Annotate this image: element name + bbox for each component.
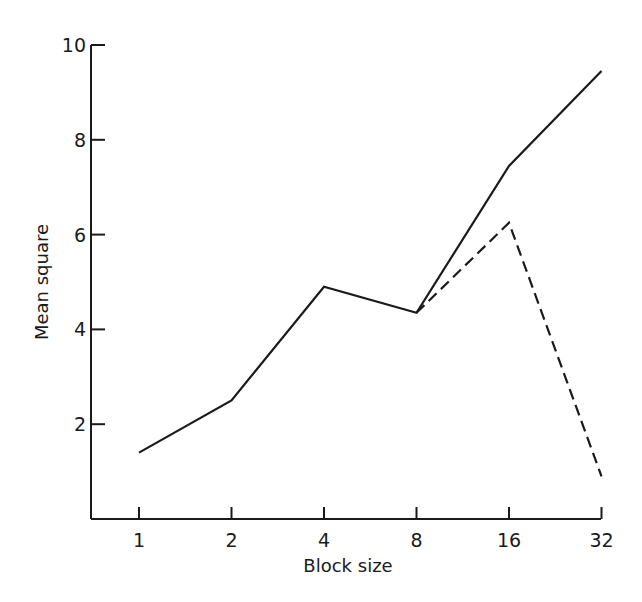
x-tick-label: 32: [589, 529, 613, 551]
x-tick-label: 4: [318, 529, 330, 551]
x-tick-label: 8: [410, 529, 422, 551]
series-line-dashed: [417, 223, 602, 476]
series-layer: [139, 71, 602, 476]
x-tick-label: 16: [497, 529, 521, 551]
y-tick-label: 8: [74, 129, 86, 151]
y-tick-label: 2: [74, 413, 86, 435]
x-axis-title: Block size: [303, 555, 392, 576]
y-axis-title: Mean square: [31, 224, 52, 340]
line-chart: 24681012481632 Block size Mean square: [0, 0, 642, 602]
axes: 24681012481632: [62, 34, 614, 551]
x-tick-label: 1: [133, 529, 145, 551]
y-tick-label: 6: [74, 224, 86, 246]
chart-canvas: 24681012481632 Block size Mean square: [0, 0, 642, 602]
y-tick-label: 10: [62, 34, 86, 56]
series-line-solid: [139, 71, 602, 453]
y-tick-label: 4: [74, 318, 86, 340]
x-tick-label: 2: [225, 529, 237, 551]
